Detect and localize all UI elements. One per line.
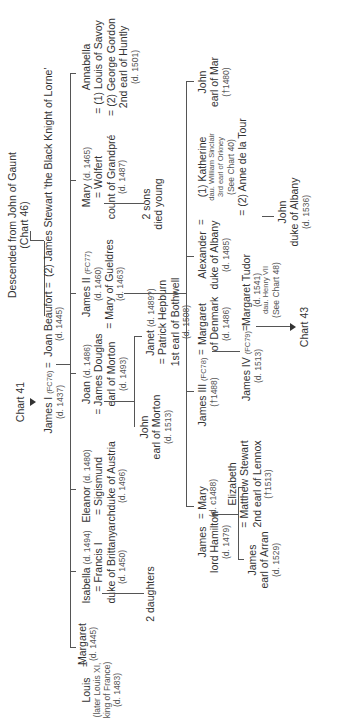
person-james-i: James I (FC76) (d. 1437) [42, 370, 65, 433]
person-james-ii: James II (FC77) (d. 1460) = Mary of Guel… [80, 239, 125, 329]
connector [186, 506, 194, 507]
person-katherine: (1) Katherine dau. William Sinclair 3rd … [196, 118, 248, 216]
person-eleanor: Eleanor (d. 1480) = Sigismund archduke o… [80, 441, 127, 531]
connector [70, 180, 76, 181]
person-joan-beaufort: Joan Beaufort (d. 1445) [42, 291, 64, 356]
person-margaret-denmark: Margaret of Denmark (d. 1486) [196, 297, 231, 351]
connector [70, 571, 76, 572]
connector [70, 373, 76, 374]
sibling-bar [70, 74, 71, 648]
connector [104, 401, 134, 402]
person-joan: Joan (d. 1486) = James Douglas earl of M… [80, 334, 128, 415]
connector [186, 256, 194, 257]
person-james-iii: James III (FC78) (†1488) [196, 358, 219, 427]
connector [212, 351, 240, 352]
person-james-arran: James earl of Arran (d. 1529) [246, 531, 281, 588]
person-james-iv: James IV (FC79) (d. 1513) [240, 331, 263, 401]
connector [104, 203, 144, 204]
connector [70, 73, 76, 74]
genealogy-chart: Descended from John of Gaunt (Chart 46) … [0, 0, 347, 722]
chart-43-link[interactable]: Chart 43 [298, 307, 310, 347]
person-janet: Janet (d. 1489?) = Patrick Hepburn 1st e… [144, 278, 191, 367]
arrow-down-icon [30, 398, 36, 406]
person-louis: Louis (later Louis XI, king of France) (… [80, 662, 122, 719]
connector [134, 336, 142, 337]
person-elizabeth: Elizabeth = Matthew Stewart 2nd earl of … [226, 440, 273, 527]
person-john-morton: John earl of Morton (d. 1513) [138, 395, 173, 460]
person-mary-1465: Mary (d. 1465) = Wolfert count of Grandp… [80, 135, 127, 220]
issue-2-sons: 2 sons died young [140, 178, 165, 229]
person-margaret: Margaret (d. 1445) [76, 623, 98, 665]
issue-2-daughters: 2 daughters [144, 566, 156, 621]
person-margaret-tudor: Margaret Tudor (d. 1541) dau. Henry VII … [240, 254, 281, 326]
sibling-bar [134, 337, 135, 427]
chart-41-link[interactable]: Chart 41 [14, 382, 26, 422]
connector [70, 293, 76, 294]
connector [56, 364, 70, 365]
connector [238, 559, 244, 560]
connector [70, 489, 76, 490]
connector [124, 293, 186, 294]
connector [256, 326, 292, 327]
person-john-albany: John duke of Albany (d. 1536) [276, 178, 311, 247]
marriage-sign: = [43, 362, 54, 368]
person-annabella: Annabella = (1) Louis of Savoy = (2) Geo… [80, 18, 140, 116]
connector [186, 81, 194, 82]
sibling-bar [186, 82, 187, 507]
connector [262, 216, 274, 217]
marriage-sign: = [196, 219, 207, 225]
person-alexander: Alexander duke of Albany (d. 1485) [196, 221, 231, 290]
connector [102, 593, 144, 594]
person-james-stewart: (2) James Stewart 'the Black Knight of L… [42, 68, 54, 277]
connector [186, 391, 194, 392]
connector [30, 231, 31, 241]
arrow-down-icon [290, 323, 296, 331]
person-mary-c1488: Mary (d. c1488) [196, 479, 218, 517]
marriage-sign: = [240, 325, 251, 331]
person-john-mar: John earl of Mar (†1480) [196, 57, 231, 107]
marriage-sign: = [43, 282, 54, 288]
ancestry-note: Descended from John of Gaunt (Chart 46) [6, 152, 31, 298]
